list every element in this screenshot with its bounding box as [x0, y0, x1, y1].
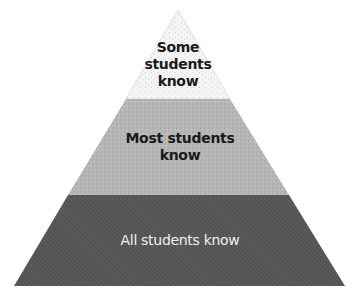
bottom-layer-label: All students know: [90, 232, 270, 249]
middle-layer-label: Most students know: [100, 130, 260, 164]
top-layer-label: Some students know: [128, 39, 228, 89]
